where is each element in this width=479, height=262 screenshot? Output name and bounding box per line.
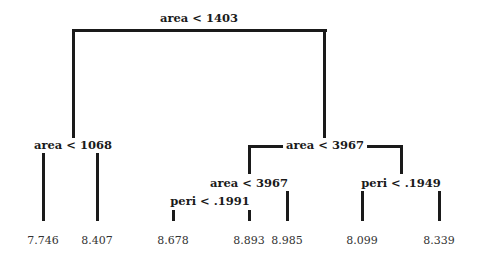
- branch-line: [42, 153, 45, 221]
- branch-line: [72, 29, 327, 32]
- leaf-value: 8.985: [271, 234, 303, 247]
- node-right-right-split: peri < .1949: [358, 176, 443, 190]
- branch-line: [248, 210, 251, 221]
- leaf-value: 8.678: [157, 234, 189, 247]
- leaf-value: 8.893: [233, 234, 265, 247]
- node-left-split: area < 1068: [31, 138, 115, 152]
- leaf-value: 8.099: [346, 234, 378, 247]
- branch-line: [286, 191, 289, 221]
- branch-line: [172, 210, 175, 221]
- branch-line: [400, 145, 403, 174]
- node-right-left-left-split: peri < .1991: [167, 194, 252, 208]
- leaf-value: 7.746: [27, 234, 59, 247]
- node-root-split: area < 1403: [157, 11, 241, 25]
- branch-line: [72, 29, 75, 144]
- branch-line: [248, 145, 251, 174]
- leaf-value: 8.407: [81, 234, 113, 247]
- node-right-left-split: area < 3967: [207, 176, 291, 190]
- node-right-split: area < 3967: [283, 138, 367, 152]
- branch-line: [96, 153, 99, 221]
- branch-line: [438, 191, 441, 221]
- branch-line: [323, 29, 326, 144]
- branch-line: [361, 191, 364, 221]
- leaf-value: 8.339: [423, 234, 455, 247]
